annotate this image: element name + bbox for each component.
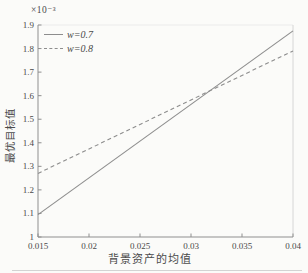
series-line-w=0.7 xyxy=(38,31,293,215)
line-chart-figure: 11.11.21.31.41.51.61.71.81.90.0150.020.0… xyxy=(0,0,308,273)
legend-item: w=0.7 xyxy=(44,27,93,41)
x-axis-title: 背景资产的均值 xyxy=(70,250,230,266)
legend-label: w=0.8 xyxy=(67,43,93,54)
y-axis-exponent-label: ×10⁻³ xyxy=(31,4,56,15)
y-axis-tick-label: 1.3 xyxy=(23,161,35,171)
series-line-w=0.8 xyxy=(38,51,293,173)
y-axis-tick-label: 1.8 xyxy=(23,44,35,54)
x-axis-tick-label: 0.015 xyxy=(28,241,49,251)
y-axis-tick-label: 1.5 xyxy=(23,114,35,124)
page-rule-line xyxy=(12,270,302,271)
legend-item: w=0.8 xyxy=(44,41,93,55)
legend-line-sample-dashed xyxy=(44,48,63,49)
y-axis-tick-label: 1.7 xyxy=(23,67,35,77)
x-axis-tick-label: 0.035 xyxy=(232,241,253,251)
y-axis-tick-label: 1.2 xyxy=(23,185,34,195)
legend-label: w=0.7 xyxy=(67,29,93,40)
y-axis-tick-label: 1.9 xyxy=(23,20,35,30)
y-axis-tick-label: 1.1 xyxy=(23,208,34,218)
legend-line-sample-solid xyxy=(44,34,63,35)
chart-legend: w=0.7w=0.8 xyxy=(44,27,93,55)
x-axis-tick-label: 0.04 xyxy=(285,241,301,251)
y-axis-tick-label: 1.4 xyxy=(23,138,35,148)
y-axis-tick-label: 1.6 xyxy=(23,91,35,101)
y-axis-title: 最优目标值 xyxy=(2,104,16,166)
